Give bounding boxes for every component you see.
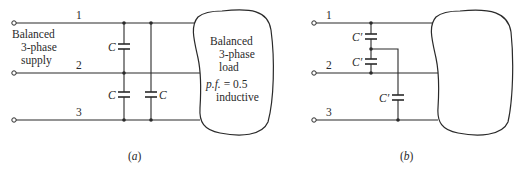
junction-node	[149, 21, 153, 25]
cap-label: C	[108, 89, 116, 101]
svg-text:load: load	[219, 61, 239, 73]
junction-node	[149, 118, 153, 122]
line-3-label-a: 3	[76, 106, 82, 118]
capacitor-1-3-a: C	[145, 23, 167, 120]
svg-text:p.f.= 0.5: p.f.= 0.5	[205, 78, 248, 91]
junction-node	[122, 71, 126, 75]
capacitor-top-b: C′	[352, 23, 377, 49]
line-1-b: 1	[312, 9, 436, 25]
svg-text:3-phase: 3-phase	[21, 41, 57, 54]
svg-text:3-phase: 3-phase	[219, 48, 255, 61]
caption-a: (a)	[128, 150, 142, 163]
capacitor-mid-b: C′	[352, 49, 377, 73]
junction-node	[369, 47, 373, 51]
cap-label: C′	[379, 92, 390, 104]
cap-label: C	[159, 89, 167, 101]
terminal-3-a	[12, 118, 16, 122]
junction-node	[122, 21, 126, 25]
terminal-3-b	[312, 118, 316, 122]
junction-node	[122, 118, 126, 122]
line-3-a: 3	[12, 106, 200, 122]
cap-label: C	[108, 41, 116, 53]
capacitor-1-2-a: C	[108, 23, 130, 73]
terminal-2-b	[312, 71, 316, 75]
junction-node	[369, 21, 373, 25]
junction-node	[396, 118, 400, 122]
terminal-1-b	[312, 21, 316, 25]
svg-text:inductive: inductive	[216, 91, 259, 103]
cap-label: C′	[352, 31, 363, 43]
pf-prefix: p.f.	[205, 78, 221, 91]
svg-text:Balanced: Balanced	[12, 28, 55, 40]
load-blob-b	[431, 10, 512, 135]
line-1-label-b: 1	[326, 9, 332, 21]
cap-label: C′	[352, 56, 363, 68]
supply-label: Balanced 3-phase supply	[12, 28, 57, 67]
junction-node	[369, 71, 373, 75]
capacitor-bottom-b: C′	[379, 92, 404, 120]
line-3-label-b: 3	[326, 106, 332, 118]
circuit-diagram: 1 2 3 Balanced 3-phase supply C	[0, 0, 518, 175]
line-1-a: 1	[12, 9, 196, 25]
pf-value: = 0.5	[224, 78, 248, 90]
panel-a: 1 2 3 Balanced 3-phase supply C	[12, 9, 274, 163]
line-3-b: 3	[312, 106, 438, 122]
terminal-2-a	[12, 71, 16, 75]
svg-text:supply: supply	[21, 54, 52, 67]
terminal-1-a	[12, 21, 16, 25]
line-2-label-b: 2	[326, 59, 332, 71]
line-2-label-a: 2	[76, 59, 82, 71]
line-2-b: 2	[312, 59, 439, 75]
mid-node-wire	[371, 49, 398, 95]
capacitor-2-3-a: C	[108, 73, 130, 120]
line-1-label-a: 1	[76, 9, 82, 21]
svg-text:Balanced: Balanced	[210, 35, 253, 47]
caption-b: (b)	[400, 150, 414, 163]
panel-b: 1 2 3 C′ C′	[312, 9, 513, 163]
